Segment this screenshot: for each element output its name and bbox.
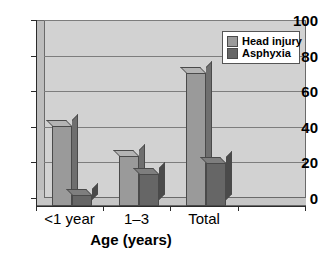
bar-head-injury-under1	[52, 126, 72, 206]
bar-head-injury-1to3	[119, 156, 139, 206]
bar-front-face	[186, 73, 206, 206]
gridline-20	[44, 162, 306, 163]
y-tick-label-60: 60	[286, 84, 318, 99]
x-tick-label-1to3: 1–3	[103, 211, 170, 226]
gridline-100	[44, 20, 306, 21]
gridline-40	[44, 127, 306, 128]
x-tick-mark-3	[238, 206, 239, 211]
bar-front-face	[52, 126, 72, 206]
bar-side-face	[226, 151, 232, 200]
y-tick-mark-80	[31, 56, 37, 57]
y-tick-label-100: 100	[286, 13, 318, 28]
legend-swatch-icon	[227, 48, 238, 59]
bar-side-face	[159, 162, 165, 200]
y-axis-line	[36, 20, 37, 206]
legend-label-head-injury: Head injury	[242, 36, 302, 47]
x-tick-label-under1: <1 year	[36, 211, 103, 226]
legend-label-asphyxia: Asphyxia	[242, 48, 291, 59]
legend: Head injury Asphyxia	[222, 31, 300, 64]
x-axis-title: Age (years)	[0, 232, 262, 247]
y-tick-mark-100	[31, 20, 37, 21]
bar-asphyxia-under1	[72, 195, 92, 206]
bar-front-face	[119, 156, 139, 206]
y-tick-mark-0	[31, 198, 37, 199]
bar-asphyxia-total	[206, 163, 226, 206]
gridline-60	[44, 91, 306, 92]
legend-swatch-icon	[227, 36, 238, 47]
y-tick-mark-40	[31, 127, 37, 128]
bar-chart: 100 80 60 40 20 0 <1 year 1–3 Total Head…	[0, 0, 318, 263]
x-axis-line	[36, 206, 306, 207]
bar-asphyxia-1to3	[139, 174, 159, 206]
bar-front-face	[206, 163, 226, 206]
legend-item-asphyxia: Asphyxia	[227, 48, 295, 59]
y-tick-label-0: 0	[286, 191, 318, 206]
bar-front-face	[72, 195, 92, 206]
x-tick-mark-4	[305, 206, 306, 211]
y-tick-mark-20	[31, 162, 37, 163]
plot-left-wall	[36, 20, 44, 198]
bar-head-injury-total	[186, 73, 206, 206]
y-tick-label-20: 20	[286, 155, 318, 170]
y-tick-label-40: 40	[286, 120, 318, 135]
bar-side-face	[72, 114, 78, 200]
x-tick-label-total: Total	[170, 211, 238, 226]
bar-front-face	[139, 174, 159, 206]
y-tick-mark-60	[31, 91, 37, 92]
legend-item-head-injury: Head injury	[227, 36, 295, 47]
